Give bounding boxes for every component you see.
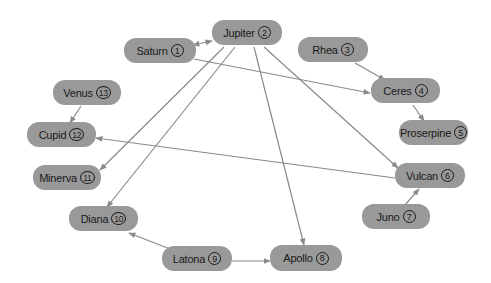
node-apollo: Apollo8	[270, 245, 342, 271]
node-label: Venus	[63, 87, 93, 99]
node-number-badge: 7	[403, 210, 416, 223]
edge-ceres-to-proserpine	[413, 105, 424, 121]
node-label: Jupiter	[223, 27, 255, 39]
edge-juno-to-vulcan	[405, 189, 419, 205]
node-label: Latona	[173, 253, 205, 265]
node-label: Diana	[81, 213, 109, 225]
node-number-badge: 6	[441, 169, 454, 182]
node-number-badge: 8	[316, 252, 329, 265]
node-ceres: Ceres4	[371, 78, 440, 103]
node-label: Ceres	[383, 85, 411, 97]
edge-venus-to-cupid	[70, 106, 81, 123]
node-diana: Diana10	[69, 206, 138, 231]
edge-vulcan-to-cupid	[96, 138, 395, 178]
node-number-badge: 5	[454, 126, 467, 139]
node-label: Apollo	[283, 252, 312, 264]
edge-jupiter-to-minerva	[100, 47, 224, 170]
node-number-badge: 1	[171, 44, 184, 57]
edge-saturn-to-jupiter	[193, 41, 212, 45]
node-vulcan: Vulcan6	[395, 163, 465, 188]
node-label: Proserpine	[400, 127, 451, 139]
node-number-badge: 11	[80, 171, 95, 184]
node-number-badge: 13	[96, 86, 111, 99]
node-rhea: Rhea3	[298, 37, 368, 62]
node-minerva: Minerva11	[33, 165, 101, 190]
node-label: Juno	[376, 211, 399, 223]
node-saturn: Saturn1	[124, 38, 196, 63]
node-number-badge: 3	[341, 43, 354, 56]
node-venus: Venus13	[53, 80, 121, 105]
edge-saturn-to-ceres	[194, 59, 370, 93]
node-label: Rhea	[312, 44, 338, 56]
node-number-badge: 4	[415, 84, 428, 97]
node-jupiter: Jupiter2	[212, 20, 282, 45]
node-number-badge: 2	[258, 26, 271, 39]
node-label: Saturn	[136, 45, 167, 57]
node-juno: Juno7	[362, 204, 430, 229]
node-proserpine: Proserpine5	[399, 120, 468, 145]
node-number-badge: 10	[111, 212, 126, 225]
edge-jupiter-to-diana	[107, 47, 235, 207]
node-latona: Latona9	[162, 246, 232, 271]
node-number-badge: 12	[69, 128, 84, 141]
node-cupid: Cupid12	[27, 122, 96, 147]
node-number-badge: 9	[208, 252, 221, 265]
edge-jupiter-to-vulcan	[264, 47, 398, 168]
edge-latona-to-diana	[129, 233, 170, 249]
node-label: Vulcan	[406, 170, 438, 182]
family-graph-diagram: Saturn1Jupiter2Rhea3Ceres4Proserpine5Vul…	[0, 0, 491, 283]
node-label: Cupid	[39, 129, 67, 141]
node-label: Minerva	[39, 172, 77, 184]
